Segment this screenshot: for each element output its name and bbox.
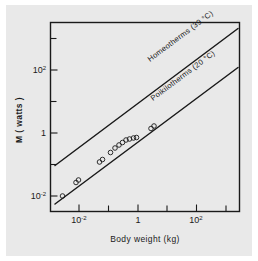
data-point: [113, 146, 118, 151]
y-axis-title: M ( watts ): [14, 97, 24, 143]
figure-root: 102 1 10-2 10-2 1 102 Body weight (kg) M…: [0, 0, 258, 261]
y-tick-label-1: 1: [41, 128, 46, 138]
poikilotherms-data-points: [60, 124, 156, 199]
y-axis-tick-labels: 102 1 10-2: [31, 65, 47, 202]
data-point: [152, 124, 157, 129]
x-tick-label-1: 1: [135, 215, 140, 225]
poikilotherms-line: [55, 68, 238, 205]
y-tick-label-1e-2: 10-2: [31, 191, 47, 202]
x-axis-title: Body weight (kg): [110, 234, 180, 244]
data-point: [149, 126, 154, 131]
x-tick-label-1e2: 102: [189, 215, 203, 226]
data-point: [134, 135, 139, 140]
data-point: [97, 160, 102, 165]
data-point: [100, 157, 105, 162]
y-axis-ticks: [51, 39, 58, 197]
x-axis-tick-labels: 10-2 1 102: [71, 215, 203, 226]
log-log-metabolic-rate-chart: 102 1 10-2 10-2 1 102 Body weight (kg) M…: [0, 0, 258, 261]
y-tick-label-1e2: 102: [33, 65, 47, 76]
data-point: [108, 150, 113, 155]
x-axis-ticks: [79, 205, 226, 212]
x-tick-label-1e-2: 10-2: [71, 215, 87, 226]
